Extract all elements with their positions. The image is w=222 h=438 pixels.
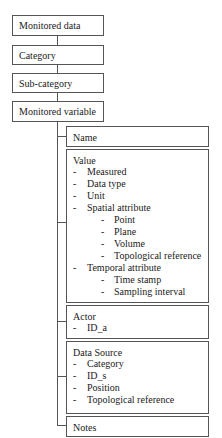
box-value: Value -Measured-Data type-Unit-Spatial a…: [66, 149, 209, 303]
bullet-dash: -: [73, 166, 76, 177]
bullet-dash: -: [73, 370, 76, 381]
bullet-dash: -: [101, 238, 104, 249]
branch-value: [57, 222, 66, 223]
list-item: Topological reference: [114, 250, 201, 262]
box-label: Category: [19, 50, 56, 61]
box-notes: Notes: [66, 416, 209, 437]
box-name: Name: [66, 126, 209, 147]
bullet-dash: -: [101, 214, 104, 225]
list-item: Topological reference: [87, 394, 174, 406]
bullet-dash: -: [101, 226, 104, 237]
box-title: Actor: [73, 311, 96, 322]
connector-line: [57, 93, 58, 101]
bullet-dash: -: [73, 382, 76, 393]
list-item: Unit: [87, 190, 105, 202]
bullet-dash: -: [73, 358, 76, 369]
list-item: Category: [87, 358, 124, 370]
box-title: Data Source: [73, 347, 122, 358]
box-label: Monitored data: [19, 20, 80, 31]
list-item: Sampling interval: [114, 286, 185, 298]
box-title: Value: [73, 155, 96, 166]
list-item: ID_a: [87, 322, 107, 334]
list-item: Measured: [87, 166, 126, 178]
bullet-dash: -: [101, 250, 104, 261]
branch-actor: [57, 321, 66, 322]
list-item: Plane: [114, 226, 136, 238]
box-data-source: Data Source -Category-ID_s-Position-Topo…: [66, 341, 209, 414]
connector-line: [57, 36, 58, 45]
bullet-dash: -: [73, 190, 76, 201]
list-item: Temporal attribute: [87, 262, 161, 274]
list-item: Point: [114, 214, 135, 226]
box-label: Monitored variable: [19, 106, 96, 117]
branch-name: [57, 136, 66, 137]
box-category: Category: [12, 45, 104, 65]
bullet-dash: -: [73, 262, 76, 273]
list-item: Position: [87, 382, 120, 394]
branch-notes: [57, 425, 66, 426]
box-actor: Actor -ID_a: [66, 305, 209, 339]
bullet-dash: -: [73, 322, 76, 333]
box-monitored-variable: Monitored variable: [12, 101, 104, 122]
bullet-dash: -: [73, 394, 76, 405]
bullet-dash: -: [101, 274, 104, 285]
bullet-dash: -: [101, 286, 104, 297]
box-label: Sub-category: [19, 78, 72, 89]
branch-data-source: [57, 376, 66, 377]
list-item: Data type: [87, 178, 126, 190]
bullet-dash: -: [73, 178, 76, 189]
bullet-dash: -: [73, 202, 76, 213]
list-item: ID_s: [87, 370, 106, 382]
box-title: Notes: [73, 422, 96, 433]
list-item: Volume: [114, 238, 145, 250]
list-item: Time stamp: [114, 274, 161, 286]
list-item: Spatial attribute: [87, 202, 151, 214]
trunk-line: [57, 122, 58, 425]
box-monitored-data: Monitored data: [12, 15, 104, 36]
box-sub-category: Sub-category: [12, 73, 104, 93]
box-title: Name: [73, 132, 97, 143]
connector-line: [57, 65, 58, 73]
